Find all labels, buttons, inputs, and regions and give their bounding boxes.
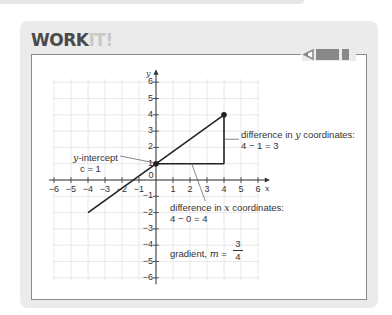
y-tick-label: 5 bbox=[129, 93, 153, 104]
y-intercept-value: c = 1 bbox=[80, 163, 101, 174]
diff-y-label: difference in y coordinates: bbox=[241, 129, 355, 140]
x-tick-label: 0 bbox=[139, 170, 163, 181]
diff-x-label: difference in x coordinates: bbox=[170, 202, 284, 213]
x-axis-arrow-icon bbox=[265, 178, 270, 183]
leader-line bbox=[192, 164, 206, 201]
point-marker bbox=[153, 161, 159, 167]
gradient-denominator: 4 bbox=[233, 251, 243, 262]
y-tick-label: 2 bbox=[129, 141, 153, 152]
y-tick-label: 4 bbox=[129, 109, 153, 120]
gradient-label: gradient, m = bbox=[170, 248, 227, 259]
y-tick-label: 3 bbox=[129, 125, 153, 136]
y-tick-label: −5 bbox=[129, 256, 153, 267]
coordinate-graph bbox=[0, 0, 392, 315]
y-tick-label: −3 bbox=[129, 223, 153, 234]
x-tick-label: 6 bbox=[246, 184, 270, 195]
y-tick-label: −2 bbox=[129, 207, 153, 218]
y-tick-label: 1 bbox=[129, 158, 153, 169]
gradient-numerator: 3 bbox=[233, 238, 243, 249]
diff-y-value: 4 − 1 = 3 bbox=[241, 140, 279, 151]
y-intercept-label: y-intercept bbox=[73, 152, 118, 163]
y-tick-label: −4 bbox=[129, 239, 153, 250]
y-tick-label: −6 bbox=[129, 272, 153, 283]
point-marker bbox=[221, 112, 227, 118]
y-tick-label: −1 bbox=[129, 190, 153, 201]
diff-x-value: 4 − 0 = 4 bbox=[170, 213, 208, 224]
y-tick-label: 6 bbox=[129, 76, 153, 87]
y-axis-arrow-icon bbox=[154, 69, 159, 75]
